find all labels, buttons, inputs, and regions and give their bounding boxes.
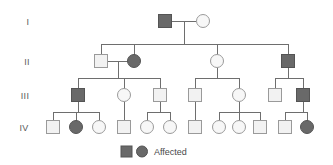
legend-label: Affected	[154, 147, 187, 157]
individual-IV-6-female-unaffected[interactable]	[164, 121, 177, 134]
individual-III-1-male-affected[interactable]	[72, 89, 85, 102]
individual-III-3-male-unaffected[interactable]	[154, 89, 167, 102]
individual-symbols	[47, 15, 314, 134]
individual-II-4-male-affected[interactable]	[282, 55, 295, 68]
individual-II-3-female-unaffected[interactable]	[211, 55, 224, 68]
individual-IV-12-female-affected[interactable]	[301, 121, 314, 134]
generation-label-II: II	[24, 57, 30, 67]
legend: Affected	[121, 146, 187, 157]
individual-IV-4-male-unaffected[interactable]	[118, 121, 131, 134]
individual-III-4-male-unaffected[interactable]	[189, 89, 202, 102]
individual-IV-3-female-unaffected[interactable]	[93, 121, 106, 134]
individual-III-6-male-unaffected[interactable]	[269, 89, 282, 102]
connector-lines	[53, 21, 307, 121]
individual-III-2-female-unaffected[interactable]	[118, 89, 131, 102]
individual-II-2-female-affected[interactable]	[128, 55, 141, 68]
individual-IV-7-male-unaffected[interactable]	[189, 121, 202, 134]
individual-III-5-female-unaffected[interactable]	[233, 89, 246, 102]
individual-IV-8-female-unaffected[interactable]	[213, 121, 226, 134]
individual-IV-5-female-unaffected[interactable]	[141, 121, 154, 134]
generation-label-III: III	[21, 91, 29, 101]
individual-IV-1-male-unaffected[interactable]	[47, 121, 60, 134]
pedigree-chart: IIIIIIIV Affected	[0, 0, 333, 165]
pedigree-canvas: IIIIIIIV Affected	[0, 0, 333, 165]
generation-label-IV: IV	[19, 123, 28, 133]
individual-IV-10-male-unaffected[interactable]	[254, 121, 267, 134]
legend-affected-square-icon	[121, 146, 132, 157]
legend-affected-circle-icon	[137, 146, 148, 157]
individual-I-1-male-affected[interactable]	[159, 15, 172, 28]
individual-IV-2-female-affected[interactable]	[70, 121, 83, 134]
individual-III-7-male-affected[interactable]	[297, 89, 310, 102]
individual-II-1-male-unaffected[interactable]	[95, 55, 108, 68]
individual-IV-11-male-unaffected[interactable]	[279, 121, 292, 134]
generation-labels: IIIIIIIV	[19, 17, 29, 133]
generation-label-I: I	[27, 17, 30, 27]
individual-I-2-female-unaffected[interactable]	[197, 15, 210, 28]
individual-IV-9-female-unaffected[interactable]	[233, 121, 246, 134]
